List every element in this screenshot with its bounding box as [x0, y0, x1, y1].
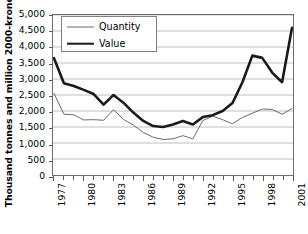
x-tick-label: 1980 — [87, 183, 96, 206]
y-tick-label: 2,500 — [19, 90, 45, 99]
x-tick-mark — [63, 176, 64, 180]
y-tick-label: 500 — [27, 155, 45, 164]
x-tick-label: 1992 — [207, 183, 216, 206]
legend-swatch-quantity-icon — [67, 22, 94, 32]
y-axis-title-text: Thousand tonnes and million 2000-kroner — [4, 0, 13, 208]
x-tick-label: 1989 — [177, 183, 186, 206]
x-tick-mark — [203, 176, 204, 181]
x-tick-mark — [163, 176, 164, 180]
y-tick-mark — [49, 112, 53, 113]
y-tick-mark — [49, 128, 53, 129]
y-tick-label: 3,500 — [19, 58, 45, 67]
x-tick-mark — [283, 176, 284, 180]
x-tick-label: 1977 — [57, 183, 66, 206]
y-tick-label: 4,000 — [19, 42, 45, 51]
chart-legend: Quantity Value — [61, 16, 157, 52]
y-axis-tick-labels: 05001,0001,5002,0002,5003,0003,5004,0004… — [14, 0, 48, 190]
x-tick-label: 1995 — [237, 183, 246, 206]
x-axis: 197719801983198619891992199519982001 — [52, 176, 294, 234]
line-chart-figure: Thousand tonnes and million 2000-kroner … — [0, 0, 308, 234]
legend-item-quantity: Quantity — [62, 18, 156, 35]
x-tick-label: 2001 — [297, 183, 306, 206]
y-tick-mark — [49, 64, 53, 65]
x-tick-mark — [193, 176, 194, 180]
x-tick-mark — [213, 176, 214, 180]
y-tick-label: 4,500 — [19, 26, 45, 35]
x-tick-label: 1986 — [147, 183, 156, 206]
x-tick-mark — [133, 176, 134, 180]
x-tick-mark — [233, 176, 234, 181]
legend-swatch-value-icon — [67, 39, 94, 49]
y-tick-mark — [49, 31, 53, 32]
legend-item-value: Value — [62, 35, 156, 52]
x-tick-mark — [173, 176, 174, 181]
x-tick-mark — [73, 176, 74, 180]
y-tick-mark — [49, 96, 53, 97]
x-tick-mark — [243, 176, 244, 180]
y-tick-mark — [49, 15, 53, 16]
x-tick-mark — [83, 176, 84, 181]
y-tick-label: 5,000 — [19, 9, 45, 18]
x-tick-label: 1998 — [267, 183, 276, 206]
y-tick-mark — [49, 145, 53, 146]
x-tick-mark — [143, 176, 144, 181]
y-tick-label: 2,000 — [19, 107, 45, 116]
y-tick-label: 3,000 — [19, 74, 45, 83]
x-tick-mark — [153, 176, 154, 180]
y-tick-label: 1,000 — [19, 139, 45, 148]
legend-label-value: Value — [99, 39, 125, 49]
x-tick-label: 1983 — [117, 183, 126, 206]
x-tick-mark — [113, 176, 114, 181]
legend-label-quantity: Quantity — [99, 22, 140, 32]
x-tick-mark — [273, 176, 274, 180]
x-tick-mark — [183, 176, 184, 180]
x-tick-mark — [53, 176, 54, 181]
x-tick-mark — [93, 176, 94, 180]
y-tick-label: 0 — [39, 171, 45, 180]
x-tick-mark — [293, 176, 294, 181]
y-tick-mark — [49, 161, 53, 162]
x-tick-mark — [123, 176, 124, 180]
y-tick-mark — [49, 47, 53, 48]
y-tick-mark — [49, 80, 53, 81]
x-tick-mark — [103, 176, 104, 180]
x-tick-mark — [253, 176, 254, 180]
y-tick-label: 1,500 — [19, 123, 45, 132]
series-line-quantity — [54, 93, 292, 139]
x-tick-mark — [263, 176, 264, 181]
x-tick-mark — [223, 176, 224, 180]
